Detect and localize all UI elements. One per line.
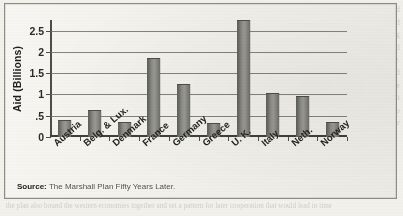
x-axis-tick <box>347 137 348 141</box>
y-axis-tick-label: 2 <box>38 46 44 58</box>
source-label: Source: <box>17 182 47 191</box>
source-text: The Marshall Plan Fifty Years Later. <box>49 182 175 191</box>
figure-panel: Aid (Billions) 0.511.522.5 AustriaBelg. … <box>4 3 397 199</box>
bar <box>237 20 250 137</box>
y-axis-tick-label: .5 <box>35 110 44 122</box>
y-axis-tick-label: 1.5 <box>29 67 44 79</box>
y-axis-tick-label: 1 <box>38 88 44 100</box>
y-axis-tick-label: 2.5 <box>29 25 44 37</box>
scanned-page: and his successors about how much to spe… <box>0 0 403 216</box>
bleed-through-text-bottom: the plan also bound the western economie… <box>6 202 400 214</box>
plot-area: 0.511.522.5 AustriaBelg. & Lux.DenmarkFr… <box>50 20 347 137</box>
bar-slot <box>258 20 288 137</box>
y-axis-tick <box>46 137 51 138</box>
y-axis-tick-label: 0 <box>38 131 44 143</box>
source-note: Source: The Marshall Plan Fifty Years La… <box>17 182 175 191</box>
y-axis-title: Aid (Billions) <box>9 20 25 137</box>
y-axis-title-label: Aid (Billions) <box>11 45 23 111</box>
bar-slot <box>288 20 318 137</box>
bar-slot <box>228 20 258 137</box>
